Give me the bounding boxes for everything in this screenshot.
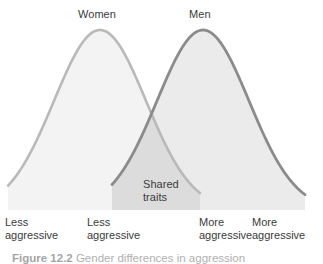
axis-tick-label-less-aggressive-1: Less aggressive: [5, 216, 58, 242]
shared-traits-label: Shared traits: [143, 178, 179, 203]
women-curve-label: Women: [78, 8, 116, 21]
axis-tick-label-less-aggressive-2: Less aggressive: [87, 216, 140, 242]
figure-caption-text: Gender differences in aggression: [76, 252, 245, 264]
axis-tick-label-more-aggressive-2: More aggressive: [252, 216, 305, 242]
figure-caption: Figure 12.2 Gender differences in aggres…: [12, 252, 323, 264]
figure-caption-number: Figure 12.2: [12, 252, 73, 264]
axis-tick-label-more-aggressive-1: More aggressive: [199, 216, 252, 242]
men-curve-label: Men: [189, 8, 211, 21]
